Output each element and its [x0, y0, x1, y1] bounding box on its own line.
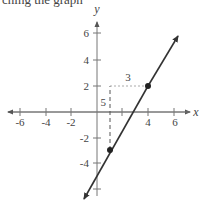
y-axis-label: y [93, 2, 100, 16]
y-tick-label: 6 [84, 27, 90, 39]
x-tick-label: -6 [15, 116, 25, 128]
y-tick-label: 4 [84, 54, 90, 66]
x-tick-label: -2 [66, 116, 75, 128]
rise-label: 5 [101, 96, 107, 108]
y-tick-label: -2 [80, 132, 89, 144]
slope-triangle: 5 3 [101, 71, 149, 150]
y-axis: 6 4 2 -2 -4 y [80, 2, 101, 196]
point-1-neg3 [107, 147, 113, 153]
x-axis-label: x [192, 105, 199, 119]
x-axis: -6 -4 -2 4 6 x [8, 105, 199, 128]
x-tick-label: 6 [172, 116, 178, 128]
y-tick-label: 2 [84, 80, 90, 92]
run-label: 3 [125, 71, 131, 83]
point-4-2 [145, 83, 151, 89]
y-tick-label: -4 [80, 157, 90, 169]
coordinate-plane: -6 -4 -2 4 6 x 6 4 2 -2 -4 y 5 3 [0, 0, 202, 202]
x-tick-label: 4 [145, 116, 151, 128]
x-tick-label: -4 [41, 116, 51, 128]
